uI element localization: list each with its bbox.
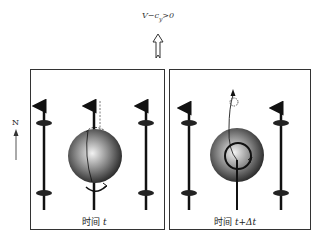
field-line-right-1 — [181, 108, 197, 210]
sphere-right — [210, 128, 264, 210]
field-line-right-3 — [273, 108, 289, 210]
north-arrow-icon — [14, 129, 19, 160]
caption-cn: 时间 — [82, 217, 100, 227]
caption-time-t-plus-dt: 时间 t+Δt — [214, 215, 256, 228]
diagram-graphics — [0, 0, 318, 242]
hollow-up-arrow-icon — [153, 34, 163, 58]
bent-field-line-right — [229, 89, 238, 128]
field-line-left-3 — [138, 106, 154, 210]
field-line-left-1 — [36, 106, 52, 210]
caption-var: t — [103, 217, 107, 227]
caption-var: t+Δt — [235, 217, 256, 227]
sphere-left — [68, 127, 122, 191]
north-label: N — [12, 118, 19, 127]
caption-cn: 时间 — [214, 217, 232, 227]
caption-time-t: 时间 t — [82, 215, 107, 228]
